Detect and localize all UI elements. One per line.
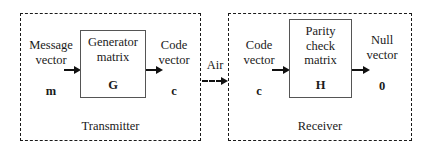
generator-matrix-title: Generator matrix <box>81 35 145 64</box>
arrow-air-channel <box>202 77 230 86</box>
generator-matrix-line1: Generator <box>88 35 138 49</box>
arrow-dashed-shaft <box>202 80 222 82</box>
message-vector-line1: Message <box>29 38 73 52</box>
generator-matrix-block: Generator matrix G <box>80 30 146 98</box>
code-vector-rx-line1: Code <box>246 38 272 52</box>
transmitter-section-label: Transmitter <box>20 119 201 134</box>
parity-check-matrix-line3: matrix <box>304 53 337 67</box>
generator-matrix-symbol: G <box>81 78 145 93</box>
code-vector-tx-line2: vector <box>158 53 189 67</box>
null-vector-label: Null vector 0 <box>354 33 410 94</box>
code-vector-tx-symbol: c <box>148 84 200 99</box>
null-vector-line1: Null <box>371 33 393 47</box>
air-channel-label: Air <box>198 58 232 73</box>
message-vector-line2: vector <box>35 53 66 67</box>
parity-check-matrix-line2: check <box>306 39 335 53</box>
null-vector-line2: vector <box>366 48 397 62</box>
parity-check-matrix-symbol: H <box>290 78 351 93</box>
code-vector-tx-label: Code vector c <box>148 38 200 99</box>
code-vector-rx-line2: vector <box>243 53 274 67</box>
code-vector-rx-symbol: c <box>231 84 287 99</box>
code-vector-tx-line1: Code <box>161 38 187 52</box>
message-vector-symbol: m <box>22 84 80 99</box>
receiver-section-label: Receiver <box>228 119 412 134</box>
arrow-head <box>221 77 228 85</box>
null-vector-symbol: 0 <box>354 79 410 94</box>
generator-matrix-line2: matrix <box>97 50 130 64</box>
parity-check-matrix-title: Parity check matrix <box>290 24 351 68</box>
parity-check-matrix-line1: Parity <box>306 24 336 38</box>
block-diagram: Message vector m Generator matrix G Code… <box>0 0 428 153</box>
parity-check-matrix-block: Parity check matrix H <box>289 19 352 98</box>
